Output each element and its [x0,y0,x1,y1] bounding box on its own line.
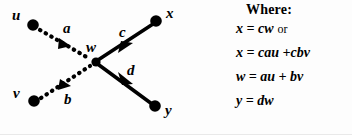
node-y [149,100,161,112]
node-label-x: x [166,6,174,21]
node-v [28,95,40,107]
equation-text: w = au + bv [236,69,303,84]
equation-text: y = dw [236,93,274,108]
edge-w-x-arrowhead [118,41,133,53]
equation-row: x = cwor [236,21,352,37]
equation-conjunction: or [274,22,288,36]
edge-label-a: a [63,21,71,36]
edge-label-d: d [127,63,135,78]
node-u [27,19,39,31]
edge-label-c: c [119,25,126,40]
node-w [91,57,100,66]
equation-row: w = au + bv [236,69,352,85]
equation-conjunction [274,94,278,108]
equation-conjunction [310,46,314,60]
where-heading: Where: [246,2,352,18]
equation-conjunction [303,70,307,84]
node-label-y: y [165,103,172,118]
equation-row: x = cau +cbv [236,45,352,61]
equation-text: x = cw [236,21,274,36]
equation-text: x = cau +cbv [236,45,310,60]
node-label-u: u [12,8,20,23]
signal-flow-graph-figure: u v w x y a b c d Where: x = cwor x = ca… [0,0,352,135]
node-label-v: v [13,86,20,101]
node-label-w: w [86,40,96,55]
node-x [150,15,162,27]
equation-row: y = dw [236,93,352,109]
edge-label-b: b [64,92,72,107]
equations-panel: Where: x = cwor x = cau +cbv w = au + bv… [236,2,352,117]
